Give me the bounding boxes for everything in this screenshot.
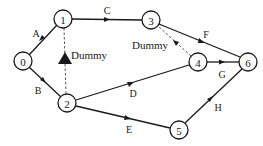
node-1: 1: [54, 10, 72, 28]
node-4: 4: [189, 53, 207, 71]
label-d: D: [129, 88, 136, 99]
arrow-dummy-right-icon: [173, 40, 179, 46]
node-0-label: 0: [20, 56, 26, 68]
label-a: A: [32, 28, 40, 39]
edges: [29, 17, 242, 128]
node-6: 6: [239, 53, 257, 71]
arrow-d-icon: [127, 82, 134, 87]
node-5-label: 5: [176, 125, 182, 137]
node-2: 2: [58, 94, 76, 112]
label-f: F: [203, 29, 209, 40]
edge-h: [185, 69, 242, 123]
arrow-a-icon: [39, 35, 45, 41]
label-dummy-left: Dummy: [71, 49, 108, 61]
label-b: B: [35, 85, 42, 96]
label-g: G: [218, 69, 225, 80]
activity-network-diagram: A B C D E F G H Dummy Dummy 0 1 2 3 4 5 …: [0, 0, 263, 146]
label-e: E: [126, 124, 132, 135]
node-3: 3: [142, 11, 160, 29]
label-c: C: [104, 5, 111, 16]
arrow-c-icon: [104, 17, 110, 22]
node-1-label: 1: [60, 14, 66, 26]
node-2-label: 2: [64, 98, 70, 110]
label-h: H: [214, 102, 221, 113]
arrow-dummy-left-icon: [58, 52, 72, 64]
arrow-g-icon: [219, 60, 225, 65]
node-0: 0: [14, 52, 32, 70]
node-5: 5: [170, 121, 188, 139]
node-6-label: 6: [245, 57, 251, 69]
edge-e: [76, 106, 170, 128]
node-4-label: 4: [195, 57, 201, 69]
label-dummy-right: Dummy: [132, 39, 169, 51]
node-3-label: 3: [148, 15, 154, 27]
